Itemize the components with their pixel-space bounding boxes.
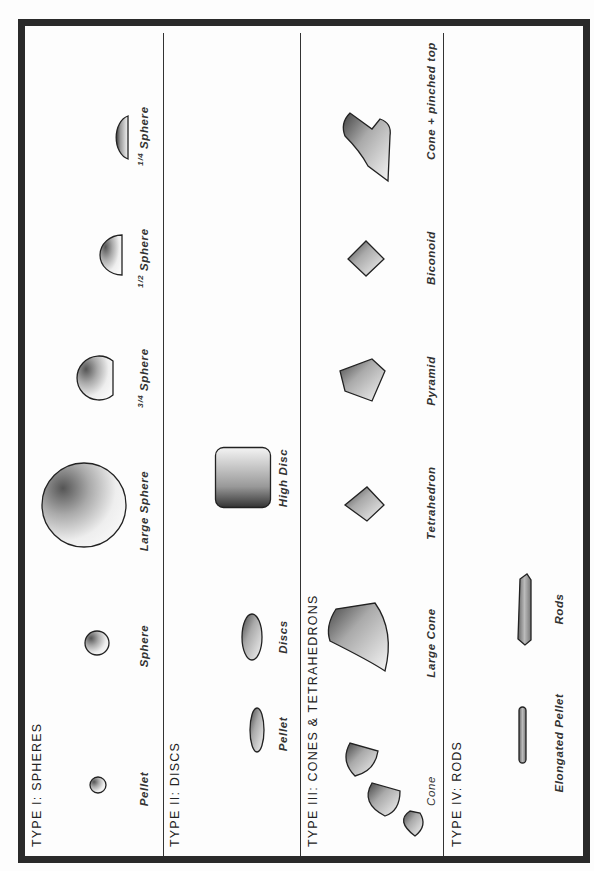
section-title-type-iii: TYPE III: CONES & TETRAHEDRONS xyxy=(306,595,320,847)
label-elongated-pellet: Elongated Pellet xyxy=(553,693,565,792)
label-cone-pinched-top: Cone + pinched top xyxy=(425,42,437,160)
cone-shapes xyxy=(346,743,423,836)
pellet-sphere-shape xyxy=(90,777,106,793)
label-biconoid: Biconoid xyxy=(425,231,437,285)
biconoid-shape xyxy=(348,241,384,276)
section-title-type-ii: TYPE II: DISCS xyxy=(168,742,182,847)
label-pellet-sphere: Pellet xyxy=(138,772,150,806)
large-sphere-shape xyxy=(42,463,126,547)
tetrahedron-shape xyxy=(345,487,384,521)
label-tetrahedron: Tetrahedron xyxy=(425,466,437,539)
half-sphere-shape xyxy=(100,235,122,275)
cone-pinched-top-shape xyxy=(343,113,390,181)
section-title-type-iv: TYPE IV: RODS xyxy=(450,741,464,847)
three-quarter-sphere-shape xyxy=(77,356,113,400)
label-pyramid: Pyramid xyxy=(425,356,437,406)
label-three-quarter-sphere: 3/4 Sphere xyxy=(136,348,150,407)
label-cone: Cone xyxy=(425,776,437,806)
large-cone-shape xyxy=(328,603,388,671)
label-high-disc: High Disc xyxy=(277,449,289,507)
elongated-pellet-shape xyxy=(519,707,526,763)
shape-classification-sheet: TYPE I: SPHERES TYPE II: DISCS TYPE III:… xyxy=(0,0,594,871)
label-discs: Discs xyxy=(277,620,289,654)
label-half-sphere: 1/2 Sphere xyxy=(136,228,150,287)
label-sphere: Sphere xyxy=(138,625,150,668)
rod-shape xyxy=(518,574,531,645)
pellet-disc-shape xyxy=(250,708,264,752)
label-pellet-disc: Pellet xyxy=(277,717,289,751)
pyramid-shape xyxy=(340,359,385,401)
disc-shape xyxy=(242,614,262,660)
label-large-sphere: Large Sphere xyxy=(138,471,150,552)
label-quarter-sphere: 1/4 Sphere xyxy=(136,106,150,165)
shape-illustrations xyxy=(0,0,594,871)
sphere-shape xyxy=(85,631,109,655)
label-large-cone: Large Cone xyxy=(425,608,437,677)
label-rods: Rods xyxy=(553,593,565,624)
high-disc-shape xyxy=(216,448,271,508)
quarter-sphere-shape xyxy=(116,116,128,159)
section-title-type-i: TYPE I: SPHERES xyxy=(30,723,44,847)
